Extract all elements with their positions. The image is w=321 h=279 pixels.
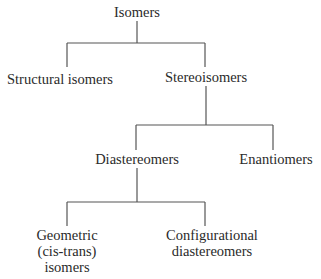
node-enantiomers: Enantiomers bbox=[238, 151, 314, 167]
geometric-line-3: isomers bbox=[34, 259, 100, 275]
node-diastereomers: Diastereomers bbox=[88, 151, 186, 167]
configurational-line-1: Configurational bbox=[164, 227, 260, 243]
node-stereoisomers: Stereoisomers bbox=[160, 69, 252, 85]
configurational-line-2: diastereomers bbox=[164, 243, 260, 259]
geometric-line-1: Geometric bbox=[34, 227, 100, 243]
node-isomers: Isomers bbox=[107, 4, 167, 20]
node-configurational-diastereomers: Configurational diastereomers bbox=[164, 227, 260, 259]
node-structural-isomers: Structural isomers bbox=[4, 71, 116, 87]
node-geometric-isomers: Geometric (cis-trans) isomers bbox=[34, 227, 100, 275]
geometric-line-2: (cis-trans) bbox=[34, 243, 100, 259]
